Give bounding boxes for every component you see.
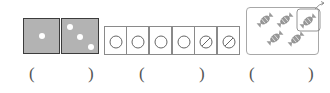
close-paren: ) xyxy=(308,64,314,84)
dot xyxy=(88,44,94,50)
three-dot-square xyxy=(61,18,99,54)
candy-icon xyxy=(276,12,293,28)
open-paren: ( xyxy=(29,64,35,84)
candy-icon xyxy=(287,31,304,47)
circle-cell xyxy=(149,26,172,55)
open-paren: ( xyxy=(249,64,255,84)
one-dot-square xyxy=(23,18,60,54)
crossed-circle-cell xyxy=(194,26,217,55)
circle-icon xyxy=(153,34,169,50)
close-paren: ) xyxy=(88,64,94,84)
circle-cell xyxy=(104,26,127,55)
dot xyxy=(77,34,83,40)
close-paren: ) xyxy=(199,64,205,84)
candies-illustration xyxy=(245,0,330,60)
open-paren: ( xyxy=(139,64,145,84)
dot xyxy=(67,24,73,30)
dot xyxy=(39,33,45,39)
crossed-circle-icon xyxy=(198,34,214,50)
candy-icon xyxy=(299,13,316,29)
circle-icon xyxy=(130,34,146,50)
circle-icon xyxy=(176,34,192,50)
circle-cell xyxy=(126,26,149,55)
candy-icon xyxy=(266,30,283,46)
circle-cell xyxy=(172,26,195,55)
crossed-circle-cell xyxy=(217,26,240,55)
crossed-circle-icon xyxy=(221,34,237,50)
circle-icon xyxy=(108,34,124,50)
candy-icon xyxy=(256,12,273,28)
